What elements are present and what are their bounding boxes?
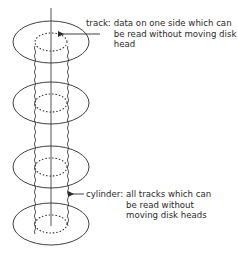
- track-term: track:: [86, 18, 111, 50]
- cylinder-def-line-2: be read without: [126, 200, 211, 211]
- cylinder-wall-left: [34, 46, 35, 234]
- platter-2: [13, 82, 89, 124]
- cylinder-def-line-1: all tracks which can: [126, 189, 211, 200]
- cylinder-definition: all tracks which can be read without mov…: [126, 189, 211, 221]
- track-definition: data on one side which can be read witho…: [114, 18, 237, 50]
- cylinder-term: cylinder:: [86, 189, 123, 221]
- track-def-line-2: be read without moving disk: [114, 29, 237, 40]
- disk-diagram: track: data on one side which can be rea…: [0, 0, 238, 254]
- track-def-line-3: head: [114, 39, 237, 50]
- track-annotation: track: data on one side which can be rea…: [86, 18, 236, 50]
- cylinder-wall-right: [67, 46, 68, 226]
- cylinder-annotation: cylinder: all tracks which can be read w…: [86, 189, 211, 221]
- cylinder-def-line-3: moving disk heads: [126, 210, 211, 221]
- track-def-line-1: data on one side which can: [114, 18, 237, 29]
